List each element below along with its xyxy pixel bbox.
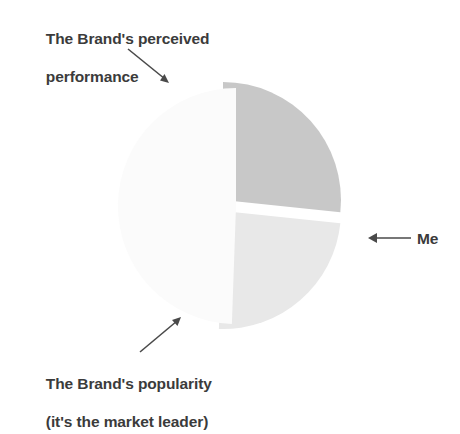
pie-slice-0 — [223, 82, 341, 212]
pie-slice-2 — [118, 88, 236, 324]
annotation-performance-line1: The Brand's perceived — [46, 30, 210, 47]
annotation-performance: The Brand's perceived performance — [29, 10, 209, 105]
annotation-performance-line2: performance — [46, 68, 139, 85]
pie-slice-1 — [219, 211, 340, 329]
annotation-popularity: The Brand's popularity (it's the market … — [29, 355, 212, 434]
annotation-popularity-line1: The Brand's popularity — [46, 375, 212, 392]
me-arrow — [368, 233, 411, 243]
popularity-arrow — [140, 317, 181, 352]
annotation-me: Me — [417, 229, 438, 248]
annotation-popularity-line2: (it's the market leader) — [46, 413, 208, 430]
pie-slices-group — [118, 82, 341, 329]
